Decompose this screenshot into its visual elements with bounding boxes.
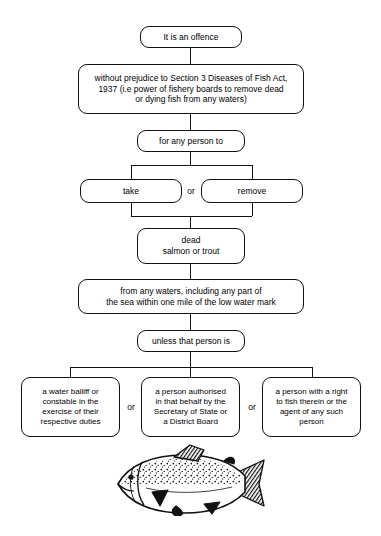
node-take[interactable]: take (80, 179, 182, 203)
node-exception-water-bailiff[interactable]: a water bailiff or constable in the exer… (21, 377, 120, 437)
connector-split-to-take (131, 165, 132, 179)
node-exception-right-to-fish-label: a person with a right to fish therein or… (275, 387, 347, 428)
connector-without-prejudice-to-for-any-person (190, 113, 191, 130)
node-dead-salmon-or-trout[interactable]: dead salmon or trout (137, 228, 245, 264)
flowchart-canvas: It is an offence without prejudice to Se… (0, 0, 381, 536)
node-take-label: take (123, 186, 139, 197)
node-remove[interactable]: remove (201, 179, 303, 203)
node-remove-label: remove (238, 186, 266, 197)
fish-eye (128, 474, 133, 479)
or-label-exception-1-2: or (123, 403, 139, 412)
node-exception-authorised-person-label: a person authorised in that behalf by th… (154, 387, 227, 428)
salmon-trout-illustration (112, 444, 274, 516)
node-it-is-an-offence[interactable]: It is an offence (140, 26, 242, 48)
node-exception-authorised-person[interactable]: a person authorised in that behalf by th… (141, 377, 240, 437)
node-for-any-person-to[interactable]: for any person to (137, 130, 245, 152)
or-label-take-remove: or (183, 187, 199, 196)
connector-remove-to-merge (252, 202, 253, 216)
node-for-any-person-to-label: for any person to (159, 136, 223, 147)
node-without-prejudice[interactable]: without prejudice to Section 3 Diseases … (78, 64, 304, 114)
node-from-any-waters[interactable]: from any waters, including any part of t… (78, 279, 304, 314)
or-label-exception-2-3: or (244, 403, 260, 412)
connector-split-to-exception-1 (70, 367, 71, 377)
node-exception-right-to-fish[interactable]: a person with a right to fish therein or… (262, 377, 361, 437)
connector-split-to-exception-3 (312, 367, 313, 377)
connector-merge-to-dead-fish (190, 216, 191, 228)
connector-dead-fish-to-from-any-waters (190, 264, 191, 279)
connector-split-to-exception-2 (190, 367, 191, 377)
node-it-is-an-offence-label: It is an offence (163, 32, 218, 43)
node-unless-that-person-is-label: unless that person is (152, 336, 230, 347)
node-dead-salmon-or-trout-label: dead salmon or trout (163, 235, 220, 257)
node-exception-water-bailiff-label: a water bailiff or constable in the exer… (40, 387, 100, 428)
connector-offence-to-without-prejudice (190, 47, 191, 64)
node-from-any-waters-label: from any waters, including any part of t… (106, 286, 276, 308)
split-bar-exceptions (70, 367, 312, 368)
node-without-prejudice-label: without prejudice to Section 3 Diseases … (95, 73, 288, 106)
node-unless-that-person-is[interactable]: unless that person is (137, 330, 245, 352)
connector-for-any-person-to-split (190, 152, 191, 165)
split-bar-take-remove (131, 165, 252, 166)
connector-take-to-merge (131, 202, 132, 216)
connector-from-any-waters-to-unless (190, 314, 191, 330)
connector-unless-to-split (190, 352, 191, 367)
connector-split-to-remove (252, 165, 253, 179)
merge-bar-take-remove (131, 216, 252, 217)
